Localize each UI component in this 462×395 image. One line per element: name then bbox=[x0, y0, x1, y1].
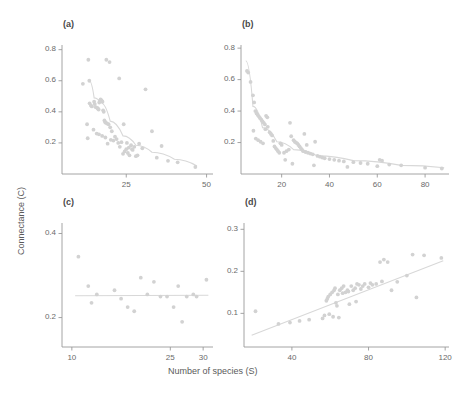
data-point bbox=[270, 134, 274, 138]
data-point bbox=[92, 128, 96, 132]
data-point bbox=[118, 145, 122, 149]
data-point bbox=[185, 295, 189, 299]
data-point bbox=[386, 260, 390, 264]
data-point bbox=[160, 144, 164, 148]
data-point bbox=[333, 286, 337, 290]
data-point bbox=[120, 140, 124, 144]
data-point bbox=[341, 291, 345, 295]
data-point bbox=[136, 153, 140, 157]
y-tick-label: 0.6 bbox=[211, 74, 235, 83]
data-point bbox=[289, 134, 293, 138]
data-point bbox=[137, 142, 141, 146]
data-point bbox=[77, 255, 81, 259]
data-point bbox=[313, 140, 317, 144]
data-point bbox=[104, 58, 108, 62]
data-point bbox=[254, 309, 258, 313]
data-point bbox=[103, 136, 107, 140]
data-point bbox=[172, 305, 176, 309]
data-point bbox=[251, 93, 255, 97]
data-point bbox=[422, 253, 426, 257]
data-point bbox=[332, 158, 336, 162]
data-point bbox=[277, 151, 281, 155]
data-point bbox=[108, 125, 112, 129]
data-point bbox=[271, 139, 275, 143]
data-point bbox=[155, 156, 159, 160]
y-tick-label: 0.6 bbox=[32, 75, 56, 84]
data-point bbox=[265, 115, 269, 119]
data-point bbox=[336, 293, 340, 297]
panel-c bbox=[0, 178, 231, 376]
data-point bbox=[283, 158, 287, 162]
data-point bbox=[323, 156, 327, 160]
x-tick-label: 30 bbox=[188, 353, 218, 362]
y-tick-label: 0.2 bbox=[32, 312, 56, 321]
data-point bbox=[152, 280, 156, 284]
data-point bbox=[277, 322, 281, 326]
data-point bbox=[399, 163, 403, 167]
x-tick-label: 80 bbox=[410, 180, 440, 189]
data-point bbox=[176, 284, 180, 288]
data-point bbox=[335, 304, 339, 308]
connectance-species-figure: Connectance (C) Number of species (S) (a… bbox=[0, 0, 462, 395]
data-point bbox=[110, 129, 114, 133]
x-tick-label: 40 bbox=[277, 353, 307, 362]
y-tick-label: 0.4 bbox=[32, 106, 56, 115]
data-point bbox=[180, 320, 184, 324]
panel-d-plot bbox=[231, 178, 462, 376]
data-point bbox=[130, 147, 134, 151]
y-tick-label: 0.4 bbox=[32, 228, 56, 237]
x-tick-label: 120 bbox=[430, 353, 460, 362]
data-point bbox=[86, 58, 90, 62]
data-point bbox=[359, 161, 363, 165]
data-point bbox=[288, 121, 292, 125]
data-point bbox=[345, 165, 349, 169]
data-point bbox=[337, 159, 341, 163]
data-point bbox=[150, 129, 154, 133]
data-point bbox=[261, 141, 265, 145]
data-point bbox=[85, 122, 89, 126]
data-point bbox=[205, 278, 209, 282]
data-point bbox=[312, 163, 316, 167]
data-point bbox=[374, 282, 378, 286]
data-point bbox=[132, 309, 136, 313]
data-point bbox=[266, 125, 270, 129]
y-tick-label: 0.8 bbox=[211, 43, 235, 52]
data-point bbox=[342, 160, 346, 164]
data-point bbox=[440, 167, 444, 171]
data-point bbox=[144, 87, 148, 91]
data-point bbox=[366, 162, 370, 166]
data-point bbox=[423, 166, 427, 170]
data-point bbox=[415, 296, 419, 300]
data-point bbox=[302, 132, 306, 136]
data-point bbox=[370, 283, 374, 287]
data-point bbox=[390, 288, 394, 292]
data-point bbox=[145, 293, 149, 297]
data-point bbox=[252, 129, 256, 133]
x-tick-label: 60 bbox=[362, 180, 392, 189]
data-point bbox=[86, 136, 90, 140]
data-point bbox=[439, 256, 443, 260]
data-point bbox=[139, 276, 143, 280]
data-point bbox=[115, 137, 119, 141]
data-point bbox=[280, 143, 284, 147]
y-tick-label: 0.3 bbox=[214, 224, 238, 233]
x-tick-label: 80 bbox=[354, 353, 384, 362]
data-point bbox=[311, 152, 315, 156]
data-point bbox=[126, 305, 130, 309]
data-point bbox=[351, 160, 355, 164]
y-tick-label: 0.2 bbox=[32, 137, 56, 146]
panel-d bbox=[231, 178, 462, 376]
data-point bbox=[357, 283, 361, 287]
data-point bbox=[375, 164, 379, 168]
data-point bbox=[102, 110, 106, 114]
data-point bbox=[246, 71, 250, 75]
data-point bbox=[159, 295, 163, 299]
data-point bbox=[305, 143, 309, 147]
data-point bbox=[90, 301, 94, 305]
data-point bbox=[337, 316, 341, 320]
data-point bbox=[378, 260, 382, 264]
data-point bbox=[291, 162, 295, 166]
data-point bbox=[347, 302, 351, 306]
data-point bbox=[119, 297, 123, 301]
panel-a-plot bbox=[0, 0, 231, 198]
